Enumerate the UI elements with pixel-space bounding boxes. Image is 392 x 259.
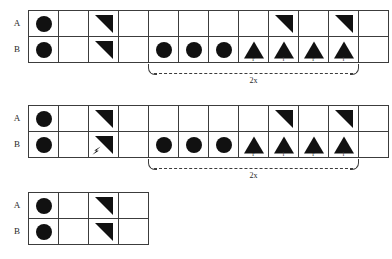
repeat-bracket: 2x: [148, 159, 359, 175]
triangle-down-left-icon: [95, 223, 113, 241]
grid-cell: [179, 132, 209, 158]
grid-cell: [359, 11, 389, 37]
grid-cell: [359, 37, 389, 63]
grid-cell: [359, 132, 389, 158]
repeat-bracket: 2x: [148, 64, 359, 80]
grid-cell: [269, 106, 299, 132]
triangle-down-left-icon: [335, 110, 353, 128]
circle-note-icon: [216, 42, 232, 58]
grid-cell: [119, 193, 149, 219]
grid-cell: [119, 132, 149, 158]
grid-cell: l: [269, 132, 299, 158]
grid-cell: r: [239, 132, 269, 158]
grid-cell: [29, 193, 59, 219]
hand-label: l: [329, 56, 358, 63]
bracket-tip-right: [350, 159, 359, 170]
grid-cell: [59, 132, 89, 158]
grid-cell: [89, 219, 119, 245]
grid-cell: r: [299, 37, 329, 63]
circle-note-icon: [36, 198, 52, 214]
notation-grid: [28, 192, 149, 245]
repeat-count-label: 2x: [148, 171, 359, 180]
grid-cell: [89, 193, 119, 219]
bracket-tip-right: [350, 64, 359, 75]
triangle-down-left-icon: [95, 15, 113, 33]
circle-note-icon: [186, 42, 202, 58]
grid-cell: [29, 11, 59, 37]
triangle-down-left-icon: [275, 15, 293, 33]
grid-cell: l: [329, 37, 359, 63]
grid-cell: [239, 106, 269, 132]
notation-grid: rlrl: [28, 10, 389, 63]
circle-note-icon: [36, 16, 52, 32]
hand-label: l: [269, 56, 298, 63]
hand-label: r: [299, 151, 328, 158]
grid-cell: [59, 37, 89, 63]
grid-cell: [59, 219, 89, 245]
grid-cell: [179, 106, 209, 132]
circle-note-icon: [36, 111, 52, 127]
grid-cell: [29, 37, 59, 63]
bracket-dashed-line: [154, 168, 353, 169]
circle-note-icon: [156, 42, 172, 58]
grid-cell: [149, 132, 179, 158]
grid-cell: [89, 106, 119, 132]
grid-cell: r: [299, 132, 329, 158]
grid-cell: [119, 11, 149, 37]
grid-cell: [119, 106, 149, 132]
grid-cell: r: [239, 37, 269, 63]
grid-cell: [149, 37, 179, 63]
hand-label: r: [239, 56, 268, 63]
grid-cell: [239, 11, 269, 37]
grid-cell: [59, 11, 89, 37]
grid-cell: [209, 11, 239, 37]
grid-cell: [59, 193, 89, 219]
grid-cell: l: [269, 37, 299, 63]
grid-cell: [149, 106, 179, 132]
triangle-down-left-icon: [95, 136, 113, 154]
grid-cell: [329, 11, 359, 37]
circle-note-icon: [156, 137, 172, 153]
grid-cell: [29, 106, 59, 132]
grid-row: rlrl: [29, 37, 389, 63]
grid-cell: [299, 11, 329, 37]
grid-row: [29, 106, 389, 132]
grid-cell: [209, 132, 239, 158]
row-label-b: B: [8, 44, 26, 54]
hand-label: l: [269, 151, 298, 158]
repeat-count-label: 2x: [148, 76, 359, 85]
row-label-a: A: [8, 200, 26, 210]
row-label-b: B: [8, 226, 26, 236]
row-label-b: B: [8, 139, 26, 149]
circle-note-icon: [186, 137, 202, 153]
grid-cell: [179, 11, 209, 37]
grid-cell: [209, 106, 239, 132]
hand-label: r: [239, 151, 268, 158]
grid-cell: [179, 37, 209, 63]
circle-note-icon: [36, 137, 52, 153]
grid-cell: [89, 11, 119, 37]
grid-row: [29, 219, 149, 245]
row-label-a: A: [8, 18, 26, 28]
hand-label: r: [299, 56, 328, 63]
triangle-down-left-icon: [335, 15, 353, 33]
bracket-dashed-line: [154, 73, 353, 74]
row-label-a: A: [8, 113, 26, 123]
triangle-down-left-icon: [275, 110, 293, 128]
grid-cell: [149, 11, 179, 37]
grid-cell: [359, 106, 389, 132]
grid-cell: [89, 37, 119, 63]
grid-row: [29, 11, 389, 37]
grid-cell: [209, 37, 239, 63]
grid-row: rlrl: [29, 132, 389, 158]
circle-note-icon: [216, 137, 232, 153]
triangle-down-left-icon: [95, 197, 113, 215]
grid-cell: [269, 11, 299, 37]
grid-cell: [329, 106, 359, 132]
triangle-down-left-icon: [95, 110, 113, 128]
notation-grid: rlrl: [28, 105, 389, 158]
grid-cell: [59, 106, 89, 132]
grid-cell: [29, 132, 59, 158]
circle-note-icon: [36, 224, 52, 240]
grid-cell: [119, 219, 149, 245]
